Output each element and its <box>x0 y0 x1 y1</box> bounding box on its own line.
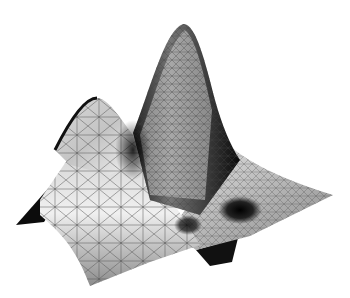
valley-pit <box>218 196 262 224</box>
saddle-shadow <box>115 120 151 180</box>
mesh-surface-render <box>0 0 350 298</box>
surface-svg <box>0 0 350 298</box>
